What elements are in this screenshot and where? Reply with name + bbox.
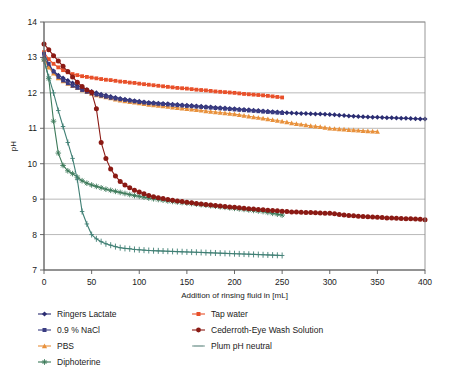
data-point-marker: [161, 84, 165, 88]
data-point-marker: [109, 96, 113, 100]
data-point-marker: [346, 213, 351, 218]
data-point-marker: [275, 95, 279, 99]
data-point-marker: [52, 70, 56, 74]
data-point-marker: [242, 108, 246, 112]
y-tick-label: 10: [28, 159, 38, 169]
data-point-marker: [75, 73, 79, 77]
legend-item-label: Cederroth-Eye Wash Solution: [211, 325, 323, 335]
data-point-marker: [61, 68, 65, 72]
y-tick-label: 12: [28, 88, 38, 98]
data-point-marker: [247, 109, 251, 113]
data-point-marker: [218, 107, 222, 111]
data-point-marker: [99, 140, 104, 145]
data-point-marker: [113, 189, 119, 195]
data-point-marker: [104, 95, 108, 99]
data-point-marker: [256, 207, 261, 212]
data-point-marker: [156, 84, 160, 88]
data-point-marker: [175, 86, 179, 90]
y-tick-label: 7: [32, 265, 37, 275]
data-point-marker: [294, 210, 299, 215]
data-point-marker: [232, 205, 237, 210]
data-point-marker: [89, 90, 94, 95]
data-point-marker: [109, 78, 113, 82]
x-tick-label: 350: [370, 277, 384, 287]
data-point-marker: [171, 85, 175, 89]
data-point-marker: [52, 62, 56, 66]
data-point-marker: [204, 105, 208, 109]
data-point-marker: [94, 184, 100, 190]
data-point-marker: [252, 109, 256, 113]
data-point-marker: [89, 182, 95, 188]
data-point-marker: [80, 74, 84, 78]
data-point-marker: [56, 58, 61, 63]
data-point-marker: [43, 328, 47, 332]
data-point-marker: [156, 195, 161, 200]
data-point-marker: [228, 91, 232, 95]
y-tick-label: 13: [28, 52, 38, 62]
data-point-marker: [66, 81, 70, 85]
legend-item-cederroth-eye-wash-solution[interactable]: Cederroth-Eye Wash Solution: [192, 325, 323, 335]
data-point-marker: [266, 94, 270, 98]
data-point-marker: [271, 110, 275, 114]
data-point-marker: [46, 47, 51, 52]
data-point-marker: [75, 86, 79, 90]
data-point-marker: [65, 69, 70, 74]
data-point-marker: [123, 98, 127, 102]
data-point-marker: [194, 201, 199, 206]
data-point-marker: [413, 216, 418, 221]
data-point-marker: [365, 214, 370, 219]
data-point-marker: [196, 328, 201, 333]
data-point-marker: [151, 194, 156, 199]
x-tick-label: 400: [418, 277, 432, 287]
data-point-marker: [408, 216, 413, 221]
data-point-marker: [303, 210, 308, 215]
data-point-marker: [142, 191, 147, 196]
data-point-marker: [247, 92, 251, 96]
data-point-marker: [123, 80, 127, 84]
data-point-marker: [204, 88, 208, 92]
data-point-marker: [170, 198, 175, 203]
data-point-marker: [418, 217, 423, 222]
data-point-marker: [161, 196, 166, 201]
data-point-marker: [233, 91, 237, 95]
data-point-marker: [280, 96, 284, 100]
data-point-marker: [246, 206, 251, 211]
y-tick-label: 14: [28, 17, 38, 27]
data-point-marker: [103, 156, 108, 161]
legend-item-label: Ringers Lactate: [57, 309, 117, 319]
x-tick-label: 150: [180, 277, 194, 287]
data-point-marker: [80, 84, 85, 89]
data-point-marker: [127, 185, 132, 190]
data-point-marker: [61, 64, 66, 69]
data-point-marker: [375, 215, 380, 220]
data-point-marker: [380, 215, 385, 220]
data-point-marker: [118, 179, 123, 184]
data-point-marker: [237, 91, 241, 95]
data-point-marker: [233, 108, 237, 112]
data-point-marker: [308, 210, 313, 215]
data-point-marker: [270, 208, 275, 213]
data-point-marker: [356, 214, 361, 219]
data-point-marker: [256, 93, 260, 97]
data-point-marker: [242, 206, 247, 211]
data-point-marker: [190, 87, 194, 91]
data-point-marker: [251, 207, 256, 212]
x-tick-label: 100: [132, 277, 146, 287]
data-point-marker: [137, 190, 142, 195]
data-point-marker: [75, 80, 80, 85]
data-point-marker: [222, 204, 227, 209]
data-point-marker: [199, 88, 203, 92]
data-point-marker: [185, 87, 189, 91]
data-point-marker: [118, 97, 122, 101]
data-point-marker: [261, 207, 266, 212]
data-point-marker: [94, 76, 98, 80]
legend-item-label: Tap water: [211, 309, 248, 319]
data-point-marker: [156, 102, 160, 106]
data-point-marker: [85, 75, 89, 79]
x-tick-label: 50: [87, 277, 97, 287]
data-point-marker: [214, 90, 218, 94]
data-point-marker: [61, 79, 65, 83]
data-point-marker: [99, 77, 103, 81]
data-point-marker: [208, 202, 213, 207]
data-point-marker: [133, 99, 137, 103]
